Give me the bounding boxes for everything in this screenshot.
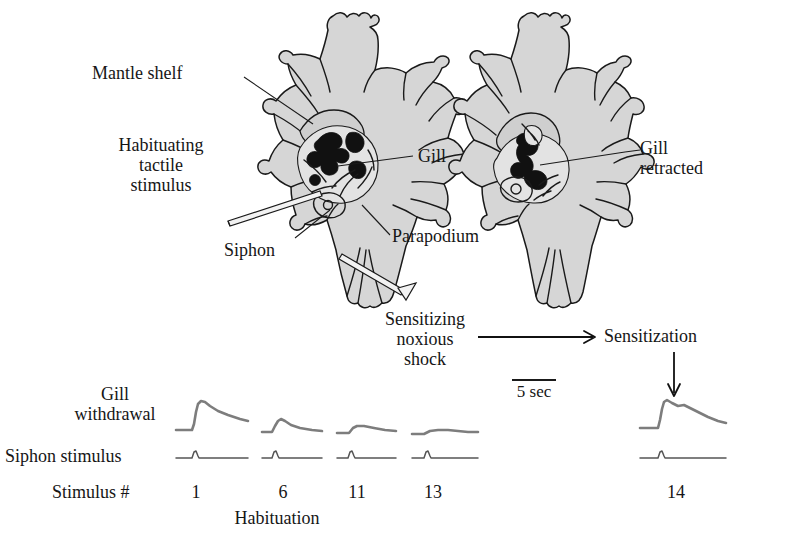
label-stimulus-number: Stimulus # [52,482,130,502]
label-sensitizing-noxious-shock: Sensitizing noxious shock [375,309,475,369]
sensitization-arrow-vertical [668,352,680,396]
aplysia-right-illustration [449,13,654,308]
label-habituation: Habituation [197,508,357,528]
trace-group-11 [337,426,396,458]
label-habituating-tactile-stimulus-text: Habituating tactile stimulus [119,135,204,195]
gill-trace-1 [176,401,248,430]
label-parapodium: Parapodium [392,226,479,246]
siphon-trace-6 [262,451,322,458]
siphon-trace-14 [640,451,726,458]
stimulus-tick-1: 1 [185,482,207,502]
trace-group-14 [640,400,726,458]
stimulus-tick-13: 13 [420,482,446,502]
trace-group-6 [262,419,322,458]
label-habituating-tactile-stimulus: Habituating tactile stimulus [86,135,236,195]
sensitization-arrow-horizontal [478,331,595,343]
label-gill-retracted: Gill retracted [640,138,703,178]
stimulus-tick-11: 11 [344,482,370,502]
gill-trace-11 [337,426,396,433]
label-gill-withdrawal: Gill withdrawal [60,384,170,424]
stimulus-tick-6: 6 [272,482,294,502]
label-sensitization: Sensitization [604,326,697,346]
trace-group-1 [176,401,248,458]
gill-trace-6 [262,419,322,432]
siphon-trace-11 [337,451,396,458]
siphon-trace-13 [412,451,478,458]
siphon-trace-1 [176,451,248,458]
stimulus-tick-14: 14 [663,482,689,502]
figure-root: Mantle shelf Habituating tactile stimulu… [0,0,794,534]
label-scale-bar: 5 sec [504,382,564,401]
label-siphon-stimulus: Siphon stimulus [5,446,122,466]
trace-group-13 [412,430,478,458]
label-siphon: Siphon [224,240,275,260]
label-mantle-shelf: Mantle shelf [92,63,182,83]
gill-trace-13 [412,430,478,434]
label-gill: Gill [418,146,446,166]
gill-trace-14 [640,400,726,428]
